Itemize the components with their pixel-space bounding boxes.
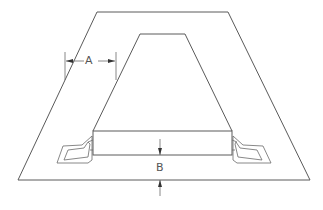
inner-trapezoid xyxy=(93,34,232,131)
arrow-down-icon xyxy=(158,148,162,155)
base-block xyxy=(93,131,232,155)
dimension-a-label: A xyxy=(84,55,94,66)
arrow-up-icon xyxy=(158,180,162,187)
left-fitting xyxy=(57,136,93,163)
arrow-left-icon xyxy=(66,59,73,63)
dimension-b-label: B xyxy=(155,162,165,173)
diagram-canvas: A B xyxy=(0,0,323,210)
arrow-right-icon xyxy=(108,59,115,63)
right-fitting xyxy=(232,136,271,163)
technical-drawing xyxy=(0,0,323,210)
